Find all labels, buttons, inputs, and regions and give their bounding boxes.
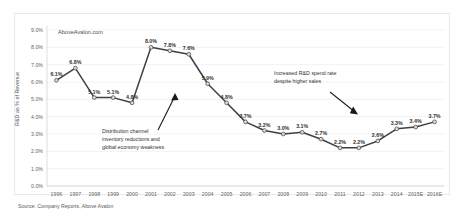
y-tick-label: 5.0% — [17, 96, 43, 102]
data-point-marker — [149, 45, 153, 49]
annotation-arrow-left — [158, 93, 179, 130]
data-point-marker — [111, 96, 115, 100]
y-tick-label: 3.0% — [17, 131, 43, 137]
data-point-marker — [73, 66, 77, 70]
annotation-left-line1: Distribution channel — [102, 127, 164, 135]
y-tick-label: 9.0% — [17, 27, 43, 33]
data-point-label: 2.6% — [367, 132, 389, 138]
data-point-marker — [225, 101, 229, 105]
data-point-marker — [263, 129, 267, 133]
data-point-marker — [357, 146, 361, 150]
data-point-marker — [206, 82, 210, 86]
annotation-right-line1: Increased R&D spend rate — [274, 69, 336, 77]
data-point-marker — [433, 120, 437, 124]
data-point-marker — [300, 130, 304, 134]
y-tick-label: 1.0% — [17, 166, 43, 172]
data-point-marker — [319, 137, 323, 141]
data-point-marker — [187, 52, 191, 56]
data-point-marker — [281, 132, 285, 136]
annotation-right-line2: despite higher sales — [274, 77, 336, 85]
data-point-marker — [92, 96, 96, 100]
data-point-label: 3.7% — [424, 113, 446, 119]
data-point-marker — [414, 125, 418, 129]
source-note: Source: Company Reports, Above Avalon — [18, 203, 113, 209]
y-tick-label: 4.0% — [17, 114, 43, 120]
data-point-marker — [338, 146, 342, 150]
data-point-label: 2.2% — [348, 139, 370, 145]
data-point-marker — [376, 139, 380, 143]
data-point-label: 3.7% — [235, 113, 257, 119]
gridlines — [47, 30, 444, 186]
x-tick-label: 2016E — [422, 191, 448, 197]
data-point-label: 3.1% — [291, 123, 313, 129]
annotation-right: Increased R&D spend rate despite higher … — [274, 69, 336, 85]
data-point-marker — [168, 49, 172, 53]
data-point-label: 6.8% — [64, 59, 86, 65]
data-point-marker — [395, 127, 399, 131]
y-tick-label: 7.0% — [17, 62, 43, 68]
data-point-label: 7.6% — [178, 45, 200, 51]
data-point-label: 4.8% — [216, 94, 238, 100]
annotation-left: Distribution channel inventory reduction… — [102, 127, 164, 152]
chart-figure: R&D as % of Revenue 0.0%1.0%2.0%3.0%4.0%… — [0, 0, 463, 223]
y-tick-label: 2.0% — [17, 148, 43, 154]
data-point-label: 6.1% — [45, 71, 67, 77]
annotation-arrow-right — [330, 92, 358, 115]
annotation-left-line2: inventory reductions and — [102, 135, 164, 143]
data-point-label: 2.7% — [310, 130, 332, 136]
annotation-left-line3: global economy weakness — [102, 143, 164, 151]
data-point-label: 5.9% — [197, 75, 219, 81]
data-point-label: 3.4% — [405, 118, 427, 124]
data-point-marker — [130, 101, 134, 105]
data-point-marker — [55, 78, 59, 82]
watermark-label: AboveAvalon.com — [58, 29, 103, 35]
y-tick-label: 6.0% — [17, 79, 43, 85]
y-tick-label: 8.0% — [17, 44, 43, 50]
data-point-label: 4.8% — [121, 94, 143, 100]
y-tick-label: 0.0% — [17, 183, 43, 189]
data-point-marker — [244, 120, 248, 124]
